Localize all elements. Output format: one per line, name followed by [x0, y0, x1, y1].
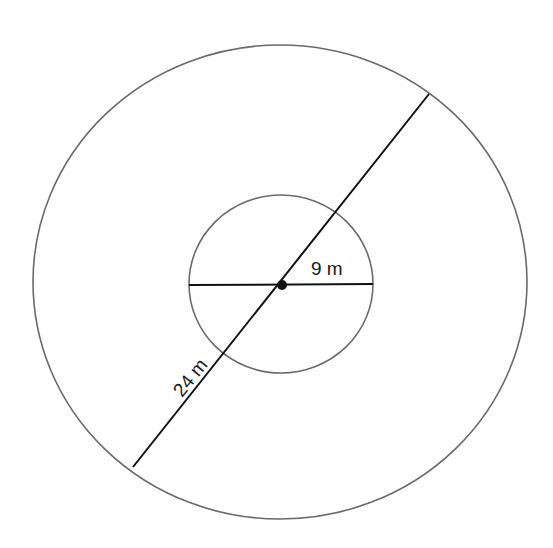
- concentric-circles-diagram: 9 m 24 m: [0, 0, 553, 548]
- center-point: [277, 280, 287, 290]
- inner-radius-label: 9 m: [311, 258, 343, 279]
